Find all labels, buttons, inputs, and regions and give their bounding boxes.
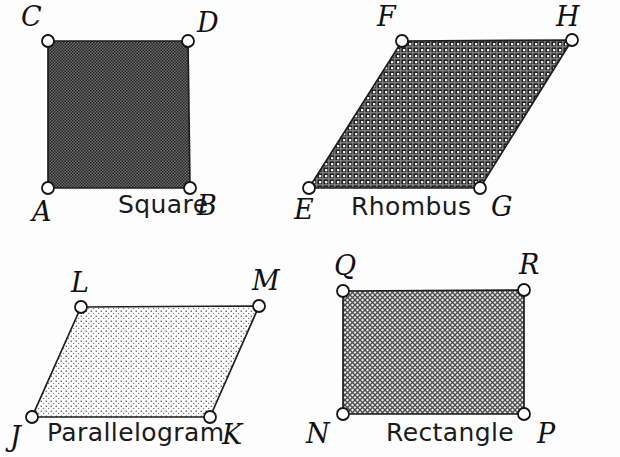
shape-rhombus[interactable]: E F G H Rhombus bbox=[293, 1, 580, 225]
shape-name-square: Square bbox=[118, 190, 208, 219]
shape-name-rhombus: Rhombus bbox=[351, 192, 471, 221]
vertex-d-dot[interactable] bbox=[182, 35, 194, 47]
vertex-l-dot[interactable] bbox=[75, 301, 87, 313]
vertex-label-k: K bbox=[221, 419, 244, 450]
vertex-label-j: J bbox=[5, 421, 23, 452]
vertex-label-q: Q bbox=[334, 250, 356, 281]
square-fill bbox=[48, 41, 190, 188]
vertex-a-dot[interactable] bbox=[42, 182, 54, 194]
vertex-e-dot[interactable] bbox=[303, 182, 315, 194]
vertex-label-m: M bbox=[251, 265, 281, 296]
vertex-h-dot[interactable] bbox=[566, 34, 578, 46]
vertex-m-dot[interactable] bbox=[253, 300, 265, 312]
rhombus-fill bbox=[309, 40, 572, 188]
vertex-c-dot[interactable] bbox=[42, 35, 54, 47]
geometry-figure: A B C D Square E F G H Rhombus bbox=[0, 0, 620, 457]
vertex-label-d: D bbox=[196, 7, 219, 38]
vertex-g-dot[interactable] bbox=[474, 182, 486, 194]
vertex-label-c: C bbox=[21, 1, 42, 32]
vertex-label-e: E bbox=[293, 194, 314, 225]
vertex-p-dot[interactable] bbox=[518, 408, 530, 420]
parallelogram-fill bbox=[32, 306, 259, 417]
shape-parallelogram[interactable]: J K L M Parallelogram bbox=[5, 265, 281, 452]
shape-name-rectangle: Rectangle bbox=[386, 418, 514, 447]
vertex-n-dot[interactable] bbox=[337, 408, 349, 420]
vertex-label-f: F bbox=[376, 1, 397, 32]
vertex-q-dot[interactable] bbox=[337, 285, 349, 297]
shape-name-parallelogram: Parallelogram bbox=[47, 418, 224, 447]
vertex-f-dot[interactable] bbox=[396, 35, 408, 47]
vertex-label-n: N bbox=[305, 418, 331, 449]
rectangle-fill bbox=[343, 290, 524, 414]
shapes-canvas: A B C D Square E F G H Rhombus bbox=[0, 0, 620, 457]
vertex-label-a: A bbox=[29, 196, 52, 227]
vertex-label-g: G bbox=[491, 191, 513, 222]
shape-square[interactable]: A B C D Square bbox=[21, 1, 219, 227]
vertex-label-l: L bbox=[70, 267, 89, 298]
vertex-r-dot[interactable] bbox=[518, 284, 530, 296]
vertex-label-h: H bbox=[555, 1, 580, 32]
vertex-label-p: P bbox=[536, 418, 556, 449]
vertex-label-r: R bbox=[518, 249, 539, 280]
vertex-j-dot[interactable] bbox=[26, 411, 38, 423]
shape-rectangle[interactable]: N P Q R Rectangle bbox=[305, 249, 556, 449]
